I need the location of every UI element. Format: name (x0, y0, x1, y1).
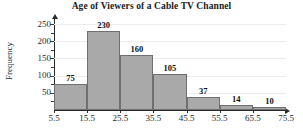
y-axis-arrow-icon (52, 14, 58, 19)
chart-title: Age of Viewers of a Cable TV Channel (0, 1, 303, 11)
x-axis-tick-label: 45.5 (173, 113, 201, 123)
bar-value-label: 75 (54, 74, 87, 83)
bar-value-label: 160 (120, 45, 153, 54)
y-axis-tick-mark (50, 93, 54, 94)
x-axis-tick-label: 65.5 (239, 113, 267, 123)
y-axis-tick-label: 50 (23, 88, 51, 97)
x-axis-tick-label: 35.5 (139, 113, 167, 123)
y-axis-minor-tick (51, 84, 54, 85)
y-axis-tick-mark (50, 58, 54, 59)
histogram-chart: Age of Viewers of a Cable TV Channel Fre… (0, 0, 303, 132)
x-axis-tick-label: 55.5 (206, 113, 234, 123)
bar-value-label: 37 (187, 87, 220, 96)
y-axis-tick-label: 150 (23, 54, 51, 63)
x-axis-tick-label: 25.5 (106, 113, 134, 123)
histogram-bar (253, 107, 286, 110)
bar-value-label: 10 (253, 97, 286, 106)
histogram-bar (87, 31, 120, 110)
y-axis-tick-mark (50, 41, 54, 42)
histogram-bar (220, 105, 253, 110)
y-axis-tick-label: 200 (23, 37, 51, 46)
x-axis-line (54, 110, 286, 111)
y-axis-tick-label: 100 (23, 71, 51, 80)
y-axis-label: Frequency (4, 29, 14, 93)
bar-value-label: 230 (87, 21, 120, 30)
y-axis-tick-mark (50, 24, 54, 25)
histogram-bar (187, 97, 220, 110)
y-axis-minor-tick (51, 33, 54, 34)
x-axis-tick-label: 5.5 (40, 113, 68, 123)
y-axis-tick-label: 250 (23, 20, 51, 29)
y-axis-minor-tick (51, 50, 54, 51)
bar-value-label: 14 (220, 95, 253, 104)
x-axis-tick-label: 75.5 (272, 113, 300, 123)
histogram-bar (120, 55, 153, 110)
histogram-bar (153, 74, 186, 110)
bar-value-label: 105 (153, 64, 186, 73)
y-axis-minor-tick (51, 101, 54, 102)
x-axis-tick-label: 15.5 (73, 113, 101, 123)
histogram-bar (54, 84, 87, 110)
y-axis-minor-tick (51, 67, 54, 68)
